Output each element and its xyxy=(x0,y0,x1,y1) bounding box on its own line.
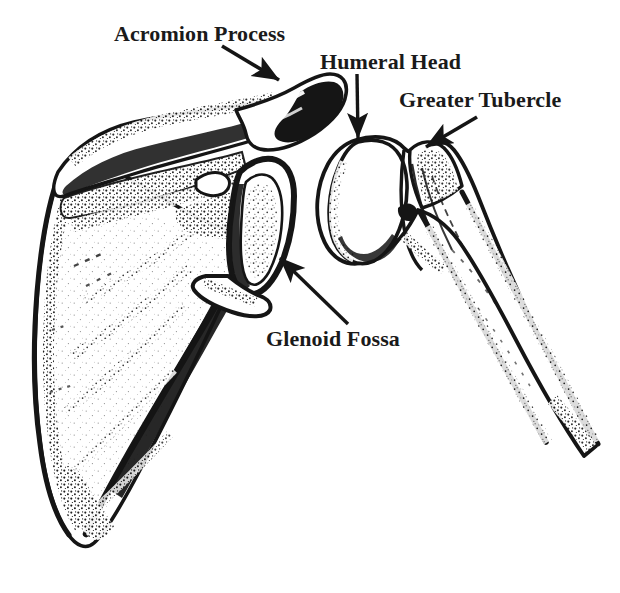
label-greater-tubercle: Greater Tubercle xyxy=(399,88,561,111)
scapular-notch xyxy=(196,173,229,196)
anatomy-figure: Acromion Process Humeral Head Greater Tu… xyxy=(0,0,620,593)
label-glenoid-fossa: Glenoid Fossa xyxy=(266,327,400,350)
label-humeral-head: Humeral Head xyxy=(320,50,461,73)
label-acromion-process: Acromion Process xyxy=(114,22,285,45)
arrow-humeral-head xyxy=(357,74,358,138)
